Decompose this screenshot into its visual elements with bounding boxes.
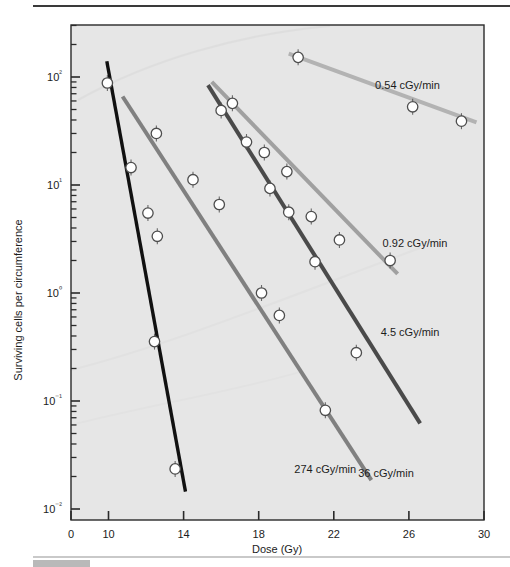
data-point-marker [310,256,320,266]
y-tick-label: 10⁻² [43,501,62,515]
data-point-marker [456,116,466,126]
y-tick-label: 10⁻¹ [43,393,62,407]
x-tick-label: 18 [253,528,265,540]
data-point-marker [256,288,266,298]
data-point-marker [284,207,294,217]
x-tick-label: 22 [328,528,340,540]
data-point-marker [188,174,198,184]
y-axis-title: Surviving cells per circumference [12,219,24,380]
data-point-marker [274,310,284,320]
data-point-marker [143,208,153,218]
data-point-marker [320,405,330,415]
data-point-marker [259,147,269,157]
y-tick-label: 10¹ [47,177,62,191]
data-point-marker [265,183,275,193]
data-point-marker [227,98,237,108]
data-point-marker [407,102,417,112]
data-point-marker [170,464,180,474]
x-tick-label: 26 [403,528,415,540]
data-point-marker [126,162,136,172]
series-label-2: 36 cGy/min [358,467,414,479]
x-tick-label: 14 [177,528,189,540]
data-point-marker [241,137,251,147]
x-axis-title: Dose (Gy) [252,543,302,555]
data-point-marker [306,211,316,221]
data-point-marker [385,255,395,265]
series-label-5: 0.54 cGy/min [375,79,440,91]
data-point-marker [216,105,226,115]
data-point-marker [293,52,303,62]
data-point-marker [334,235,344,245]
data-point-marker [152,231,162,241]
y-axis-tick-labels: 10²10¹10⁰10⁻¹10⁻² [43,69,62,515]
plot-background [71,25,484,520]
series-label-3: 4.5 cGy/min [381,326,440,338]
x-tick-label: 10 [102,528,114,540]
data-point-marker [214,199,224,209]
x-tick-label: 0 [68,528,74,540]
y-tick-label: 10⁰ [47,285,62,299]
series-label-1: 274 cGy/min [294,463,356,475]
chart-svg: 10²10¹10⁰10⁻¹10⁻² 0101418222630 274 cGy/… [0,0,510,567]
y-tick-label: 10² [47,69,62,83]
data-point-marker [351,348,361,358]
x-axis-tick-labels: 0101418222630 [68,528,490,540]
data-point-marker [282,166,292,176]
figure-panel: 10²10¹10⁰10⁻¹10⁻² 0101418222630 274 cGy/… [0,0,510,567]
series-label-4: 0.92 cGy/min [383,237,448,249]
data-point-marker [102,78,112,88]
x-tick-label: 30 [478,528,490,540]
data-point-marker [149,336,159,346]
data-point-marker [151,128,161,138]
